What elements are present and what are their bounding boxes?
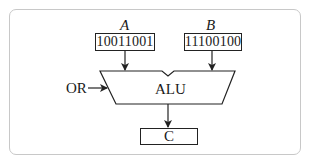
- input-a-value: 10011001: [96, 34, 153, 50]
- output-label: C: [164, 128, 174, 145]
- operation-label: OR: [66, 81, 87, 96]
- input-b-value: 11100100: [185, 34, 242, 50]
- alu-label: ALU: [155, 82, 186, 97]
- input-a-label: A: [120, 18, 129, 33]
- output-register: C: [140, 128, 198, 145]
- input-a-register: 10011001: [95, 33, 155, 51]
- input-b-register: 11100100: [184, 33, 242, 51]
- input-b-label: B: [206, 18, 215, 33]
